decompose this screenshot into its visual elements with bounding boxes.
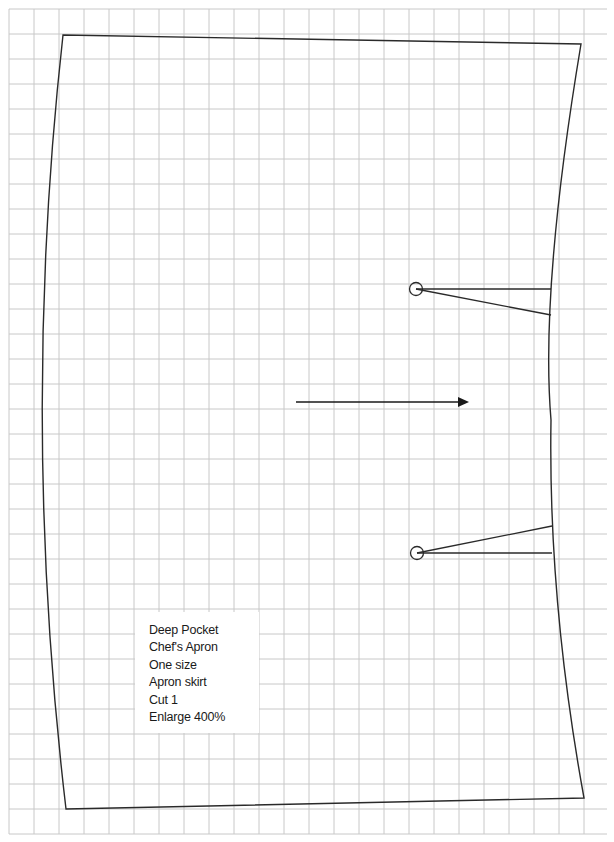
lower-pleat-marking <box>411 526 553 560</box>
label-line-title: Deep Pocket <box>149 622 259 639</box>
label-line-size: One size <box>149 657 259 674</box>
grid-lines <box>9 9 607 834</box>
grain-arrow-icon <box>296 397 469 407</box>
label-line-scale: Enlarge 400% <box>149 709 259 726</box>
upper-pleat-marking <box>410 283 552 316</box>
pattern-label: Deep Pocket Chef's Apron One size Apron … <box>135 612 259 733</box>
label-line-cut: Cut 1 <box>149 692 259 709</box>
label-line-piece: Apron skirt <box>149 674 259 691</box>
pattern-canvas <box>0 0 614 842</box>
pattern-outline <box>42 35 584 809</box>
label-line-subtitle: Chef's Apron <box>149 639 259 656</box>
